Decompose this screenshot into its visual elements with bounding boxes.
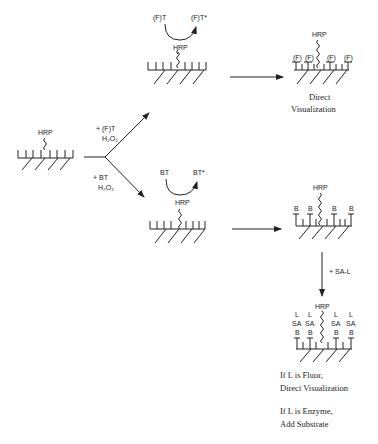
- b-label: B: [332, 205, 337, 212]
- top-enzyme-label: HRP: [173, 44, 188, 51]
- bottom-result-enzyme: HRP: [313, 184, 328, 191]
- top-label-f: (F): [344, 54, 353, 62]
- top-reaction: (F)T (F)T* HRP: [148, 14, 207, 84]
- top-label-f: (F): [293, 54, 302, 62]
- top-label-f: (F): [305, 54, 314, 62]
- top-label-f: (F): [327, 54, 336, 62]
- b-label: B: [349, 205, 354, 212]
- top-result: HRP (F) (F) (F) (F) Direct Visualization: [291, 31, 353, 114]
- branch-bottom-cofactor: H₂O₂: [98, 184, 114, 191]
- l-label: L: [349, 311, 353, 318]
- l-label: L: [295, 311, 299, 318]
- final-enzyme-label: HRP: [315, 303, 330, 310]
- top-product-label: (F)T*: [191, 14, 207, 22]
- top-caption-2: Visualization: [291, 104, 337, 114]
- step-reagent-label: + SA-L: [329, 268, 351, 275]
- sa-label: SA: [331, 320, 341, 327]
- b-label: B: [308, 205, 313, 212]
- top-caption-1: Direct: [309, 92, 331, 102]
- sa-label: SA: [346, 320, 356, 327]
- sa-label: SA: [305, 320, 315, 327]
- reaction-curve-arrow-icon: [165, 24, 196, 40]
- branch-top-cofactor: H₂O₂: [102, 135, 118, 142]
- b-label: B: [295, 329, 300, 336]
- top-substrate-label: (F)T: [153, 14, 167, 22]
- bottom-reaction: BT BT* HRP: [150, 169, 205, 243]
- bottom-result: HRP B B B B: [293, 184, 354, 239]
- note-fluor-1: If L is Fluor,: [280, 370, 323, 380]
- linker-wave-icon: [44, 138, 47, 150]
- branch-arrows: [84, 113, 149, 197]
- bottom-enzyme-label: HRP: [175, 199, 190, 206]
- sa-label: SA: [292, 320, 302, 327]
- l-label: L: [334, 311, 338, 318]
- b-label: B: [294, 205, 299, 212]
- branch-top-reagent: + (F)T: [96, 125, 116, 133]
- b-label: B: [349, 329, 354, 336]
- bottom-substrate-label: BT: [160, 169, 170, 176]
- diagram-canvas: HRP + (F)T H₂O₂ + BT H₂O₂ (F)T (F)T* HRP…: [0, 0, 378, 444]
- l-label: L: [308, 311, 312, 318]
- top-result-enzyme: HRP: [312, 31, 327, 38]
- b-label: B: [308, 329, 313, 336]
- final-result: HRP L L L L SA SA SA SA B B B B If L is …: [280, 303, 356, 429]
- start-enzyme-label: HRP: [38, 129, 53, 136]
- bottom-product-label: BT*: [193, 169, 205, 176]
- note-fluor-2: Direct Visualization: [280, 383, 349, 393]
- note-enzyme-2: Add Substrate: [280, 419, 329, 429]
- branch-bottom-reagent: + BT: [93, 174, 109, 181]
- start-surface: HRP: [18, 129, 73, 170]
- note-enzyme-1: If L is Enzyme,: [280, 406, 333, 416]
- b-label: B: [334, 329, 339, 336]
